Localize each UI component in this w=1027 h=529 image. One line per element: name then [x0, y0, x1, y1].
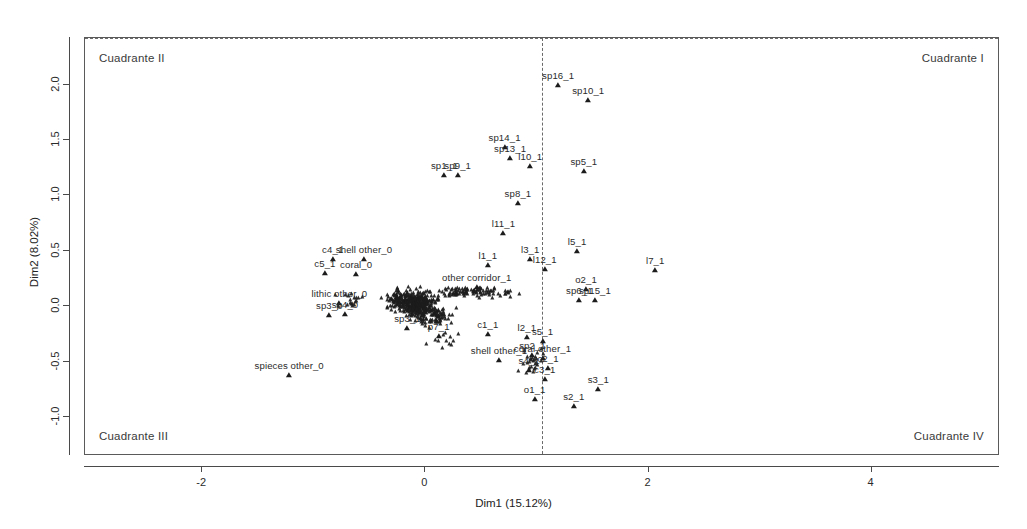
data-point	[492, 292, 496, 296]
data-point	[516, 369, 520, 373]
data-point	[463, 286, 467, 290]
point-label: sp8_1	[505, 190, 532, 200]
data-point	[427, 298, 431, 302]
y-tick-label: 1.5	[49, 128, 61, 150]
point-label: o2_1	[575, 275, 597, 285]
point-label: l7_1	[646, 256, 665, 266]
point-label: o1_1	[524, 386, 546, 396]
point-label: sp14_1	[489, 133, 521, 143]
x-tick	[871, 466, 872, 472]
data-point	[576, 297, 582, 302]
point-label: s2_1	[563, 393, 584, 403]
point-label: coral_0	[340, 261, 372, 271]
data-point	[524, 370, 528, 374]
data-point	[571, 403, 577, 408]
point-label: sp15_1	[579, 286, 611, 296]
data-point	[532, 397, 538, 402]
point-label: spieces other_0	[255, 361, 324, 371]
data-point	[416, 289, 420, 293]
data-point	[286, 372, 292, 377]
y-tick	[63, 416, 69, 417]
data-point	[585, 97, 591, 102]
data-point	[430, 294, 434, 298]
y-tick	[63, 194, 69, 195]
point-label: p7_1	[428, 323, 450, 333]
data-point	[485, 263, 491, 268]
data-point	[581, 168, 587, 173]
data-point	[441, 333, 445, 337]
point-label: c5_1	[314, 259, 335, 269]
data-point	[454, 305, 458, 309]
data-point	[380, 295, 384, 299]
data-point	[353, 271, 359, 276]
data-point	[455, 173, 461, 178]
data-point	[418, 285, 422, 289]
data-point	[385, 306, 389, 310]
x-axis-line	[84, 466, 999, 467]
point-label: l11_1	[492, 220, 515, 230]
point-label: l5_1	[568, 237, 587, 247]
point-label: c3_1	[534, 366, 555, 376]
y-tick	[63, 84, 69, 85]
data-point	[342, 311, 348, 316]
data-point	[500, 230, 506, 235]
point-label: s5_1	[532, 327, 553, 337]
quadrant-label-i: Cuadrante I	[922, 52, 984, 64]
data-point	[404, 326, 410, 331]
y-tick	[63, 361, 69, 362]
data-point	[401, 302, 405, 306]
data-point	[515, 201, 521, 206]
data-point	[496, 357, 502, 362]
point-label: c1_1	[477, 320, 498, 330]
data-point	[430, 313, 434, 317]
x-tick	[648, 466, 649, 472]
data-point	[528, 366, 532, 370]
data-point	[326, 312, 332, 317]
y-tick	[63, 305, 69, 306]
data-point	[483, 291, 487, 295]
data-point	[453, 287, 457, 291]
x-axis-label: Dim1 (15.12%)	[0, 497, 1027, 509]
data-point	[423, 310, 427, 314]
data-point	[555, 82, 561, 87]
data-point	[403, 297, 407, 301]
data-point	[524, 335, 530, 340]
plot-area: Cuadrante II Cuadrante I Cuadrante III C…	[84, 37, 999, 455]
x-tick	[424, 466, 425, 472]
quadrant-label-iv: Cuadrante IV	[914, 430, 984, 442]
y-tick-label: 1.0	[49, 183, 61, 205]
data-point	[424, 341, 428, 345]
data-point	[518, 292, 522, 296]
point-label: lithic other_0	[312, 289, 368, 299]
point-label: c2_1	[537, 355, 558, 365]
point-label: l12_1	[533, 255, 557, 265]
data-point	[419, 296, 423, 300]
data-point	[437, 339, 441, 343]
data-point	[444, 287, 448, 291]
point-label: sp9_1	[444, 162, 471, 172]
data-point	[390, 297, 394, 301]
point-label: s3_1	[588, 376, 609, 386]
point-label: sp16_1	[542, 71, 574, 81]
y-tick-label: -1.0	[49, 405, 61, 427]
data-point	[441, 307, 445, 311]
x-tick-label: -2	[196, 476, 206, 488]
data-point	[441, 173, 447, 178]
data-point	[436, 313, 440, 317]
point-label: sp3_1	[394, 315, 421, 325]
data-point	[574, 248, 580, 253]
x-tick-label: 0	[421, 476, 427, 488]
data-point	[429, 309, 433, 313]
y-tick	[63, 139, 69, 140]
data-point	[448, 294, 452, 298]
horizontal-reference-line	[85, 38, 998, 39]
data-point	[447, 342, 451, 346]
data-point	[395, 295, 399, 299]
point-label: sp2_1	[519, 342, 546, 352]
point-label: sp10_1	[572, 86, 604, 96]
data-point	[408, 306, 412, 310]
data-point	[507, 155, 513, 160]
data-point	[592, 297, 598, 302]
data-point	[394, 289, 398, 293]
data-point	[457, 331, 461, 335]
